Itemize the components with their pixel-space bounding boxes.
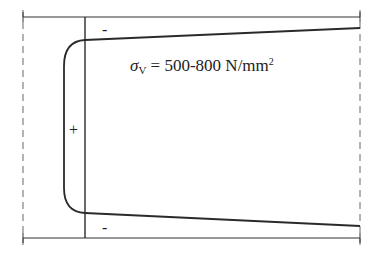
stress-formula: σV = 500-800 N/mm2 <box>130 52 274 80</box>
formula-superscript: 2 <box>269 56 274 67</box>
diagram-graphics <box>0 0 376 258</box>
sign-bottom-minus: - <box>102 220 107 236</box>
sign-top-minus: - <box>102 22 107 38</box>
formula-equals: = <box>146 56 164 75</box>
sign-middle-plus: + <box>69 122 78 138</box>
formula-value: 500-800 N/mm <box>164 56 268 75</box>
stress-diagram: - + - σV = 500-800 N/mm2 <box>0 0 376 258</box>
